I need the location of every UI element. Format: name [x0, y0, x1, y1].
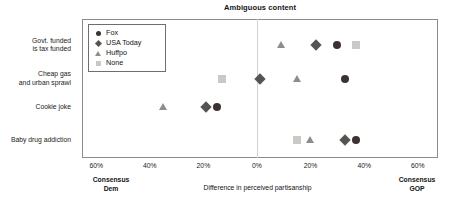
left-endcap-label: Consensus Dem: [76, 176, 146, 193]
data-point-fox: [213, 103, 221, 111]
y-axis-category-label: Cookie joke: [0, 103, 71, 111]
y-axis-category-label: Cheap gas and urban sprawl: [0, 70, 71, 87]
y-axis-category-label: Govt. funded is tax funded: [0, 37, 71, 54]
legend-item[interactable]: None: [93, 58, 161, 68]
legend-swatch-none-square-icon: [93, 61, 103, 66]
x-axis-tick-label: 40%: [130, 162, 170, 169]
data-point-none: [218, 75, 226, 83]
x-axis-tick-label: 40%: [344, 162, 384, 169]
data-point-none: [352, 41, 360, 49]
legend-label: Huffpo: [106, 48, 127, 58]
chart-title: Ambiguous content: [82, 3, 438, 12]
legend-label: Fox: [106, 28, 118, 38]
x-axis-tick-label: 20%: [183, 162, 223, 169]
data-point-huffpo: [293, 75, 301, 82]
y-axis-category-label: Baby drug addiction: [0, 136, 71, 144]
legend-label: None: [106, 58, 123, 68]
legend-item[interactable]: Fox: [93, 28, 161, 38]
x-axis-tick-label: 60%: [398, 162, 438, 169]
legend-label: USA Today: [106, 38, 141, 48]
data-point-huffpo: [159, 103, 167, 110]
data-point-huffpo: [306, 136, 314, 143]
legend-item[interactable]: Huffpo: [93, 48, 161, 58]
legend-item[interactable]: USA Today: [93, 38, 161, 48]
zero-reference-line: [257, 19, 258, 158]
legend-swatch-fox-circle-icon: [93, 31, 103, 36]
x-axis-title: Difference in perceived partisanship: [150, 184, 365, 191]
data-point-huffpo: [277, 41, 285, 48]
x-axis-tick-label: 60%: [76, 162, 116, 169]
x-axis-tick-label: 0%: [237, 162, 277, 169]
data-point-fox: [341, 75, 349, 83]
legend-swatch-huffpo-triangle-icon: [93, 51, 103, 56]
x-axis-tick-label: 20%: [291, 162, 331, 169]
right-endcap-label: Consensus GOP: [382, 176, 452, 193]
data-point-none: [293, 136, 301, 144]
chart-legend: Fox USA Today Huffpo None: [88, 24, 166, 72]
chart-container: Ambiguous content Govt. funded is tax fu…: [0, 0, 453, 206]
legend-swatch-usatoday-diamond-icon: [93, 41, 103, 46]
